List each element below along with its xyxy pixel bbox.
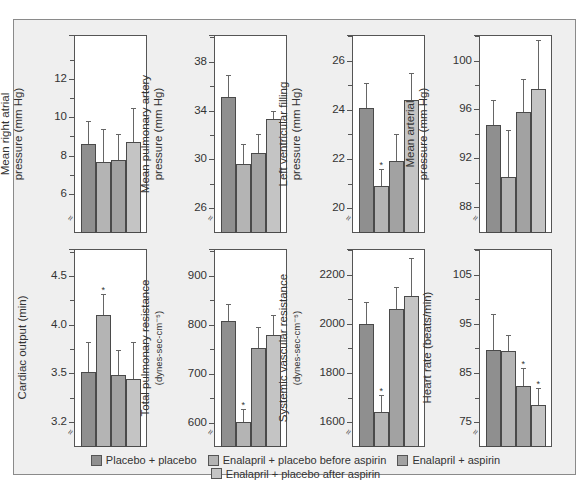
bar	[96, 162, 111, 233]
y-minor-tick	[348, 348, 352, 349]
y-tick	[69, 35, 74, 36]
y-tick	[474, 35, 479, 36]
bar	[389, 161, 404, 233]
legend-item-enalapril-before: Enalapril + placebo before aspirin	[208, 454, 387, 466]
y-tick	[209, 374, 214, 375]
y-tick-label: 85	[438, 366, 472, 378]
y-minor-tick	[475, 398, 479, 399]
legend-item-enalapril-aspirin: Enalapril + aspirin	[397, 454, 500, 466]
bar	[374, 412, 389, 447]
significance-star-icon: *	[99, 285, 107, 295]
bar	[81, 372, 96, 447]
y-tick-label: 600	[173, 416, 207, 428]
bar	[486, 350, 501, 447]
bar	[486, 125, 501, 233]
y-axis-label: Mean right atrialpressure (mm Hg)	[0, 39, 25, 229]
y-axis-label: Left ventricular fillingpressure (mm Hg)	[277, 39, 303, 229]
error-cap	[506, 130, 511, 131]
y-tick-label: 105	[438, 268, 472, 280]
error-cap	[256, 327, 261, 328]
y-tick	[69, 325, 74, 326]
y-tick	[209, 208, 214, 209]
error-bar	[103, 294, 104, 315]
y-minor-tick	[475, 134, 479, 135]
bar	[111, 160, 126, 233]
significance-star-icon: *	[534, 379, 542, 389]
y-tick	[209, 249, 214, 250]
bar	[359, 108, 374, 233]
bar	[501, 351, 516, 447]
error-bar	[133, 108, 134, 142]
y-axis-label: Total pulmonary resistance(dynes-sec-cm⁻…	[139, 253, 165, 443]
bar	[516, 112, 531, 233]
y-axis-label: Heart rate (beats/min)	[421, 253, 434, 443]
significance-star-icon: *	[377, 160, 385, 170]
significance-star-icon: *	[519, 359, 527, 369]
y-tick-label: 26	[173, 201, 207, 213]
y-tick	[474, 207, 479, 208]
error-bar	[258, 134, 259, 154]
legend: Placebo + placebo Enalapril + placebo be…	[14, 454, 577, 481]
legend-label: Enalapril + aspirin	[412, 454, 500, 466]
legend-item-placebo-placebo: Placebo + placebo	[91, 454, 197, 466]
y-minor-tick	[210, 251, 214, 252]
error-bar	[273, 111, 274, 120]
error-bar	[243, 144, 244, 165]
y-minor-tick	[348, 299, 352, 300]
y-tick-label: 3.2	[33, 415, 67, 427]
error-bar	[523, 79, 524, 112]
y-tick	[69, 194, 74, 195]
error-cap	[394, 287, 399, 288]
legend-swatch	[208, 455, 219, 466]
bar	[404, 296, 419, 447]
y-minor-tick	[70, 300, 74, 301]
bar	[81, 144, 96, 233]
error-cap	[101, 129, 106, 130]
y-tick	[347, 249, 352, 250]
y-minor-tick	[475, 348, 479, 349]
error-cap	[491, 314, 496, 315]
y-tick	[474, 158, 479, 159]
y-tick-label: 4.0	[33, 318, 67, 330]
error-bar	[396, 287, 397, 309]
y-minor-tick	[70, 60, 74, 61]
y-minor-tick	[70, 136, 74, 137]
error-cap	[271, 111, 276, 112]
y-tick-label: 12	[33, 72, 67, 84]
y-minor-tick	[210, 398, 214, 399]
y-tick	[209, 159, 214, 160]
figure-frame: Mean right atrialpressure (mm Hg)681012≈…	[13, 19, 576, 475]
bar	[516, 386, 531, 447]
y-tick-label: 95	[438, 317, 472, 329]
y-axis-label: Mean pulmonary arterypressure (mm Hg)	[139, 39, 165, 229]
y-tick	[209, 325, 214, 326]
y-tick-label: 75	[438, 415, 472, 427]
legend-label: Enalapril + placebo after aspirin	[226, 468, 380, 480]
error-bar	[538, 40, 539, 89]
legend-swatch	[91, 455, 102, 466]
y-tick	[474, 422, 479, 423]
y-tick	[69, 422, 74, 423]
y-tick	[474, 373, 479, 374]
y-minor-tick	[348, 184, 352, 185]
error-cap	[256, 134, 261, 135]
y-minor-tick	[210, 300, 214, 301]
y-tick	[209, 62, 214, 63]
y-axis-label: Cardiac output (min)	[16, 253, 29, 443]
y-tick	[209, 276, 214, 277]
y-minor-tick	[475, 250, 479, 251]
error-cap	[116, 134, 121, 135]
error-bar	[493, 100, 494, 126]
error-bar	[366, 83, 367, 108]
y-tick-label: 3.5	[33, 366, 67, 378]
y-tick-label: 1600	[311, 415, 345, 427]
error-cap	[491, 100, 496, 101]
y-minor-tick	[348, 250, 352, 251]
y-tick	[474, 249, 479, 250]
y-minor-tick	[475, 85, 479, 86]
bar	[251, 348, 266, 447]
y-tick-label: 92	[438, 151, 472, 163]
error-bar	[366, 302, 367, 324]
y-minor-tick	[475, 183, 479, 184]
error-bar	[523, 368, 524, 386]
